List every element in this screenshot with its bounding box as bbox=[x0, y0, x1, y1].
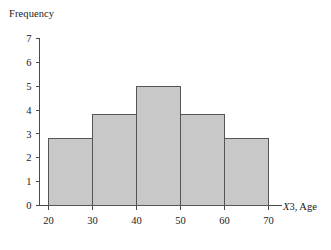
histogram-plot-area: 01234567 203040506070 bbox=[0, 0, 331, 250]
histogram-bar bbox=[181, 115, 225, 206]
histogram-bar bbox=[225, 139, 269, 206]
x-tick-label: 50 bbox=[175, 215, 186, 226]
y-tick-label: 7 bbox=[26, 33, 31, 44]
x-axis-ticks: 203040506070 bbox=[43, 206, 274, 226]
y-tick-label: 0 bbox=[26, 200, 31, 211]
x-tick-label: 70 bbox=[263, 215, 274, 226]
histogram-bars bbox=[49, 86, 269, 205]
y-tick-label: 3 bbox=[26, 129, 31, 140]
y-tick-label: 4 bbox=[26, 105, 32, 116]
y-tick-label: 2 bbox=[26, 152, 31, 163]
x-tick-label: 30 bbox=[87, 215, 98, 226]
histogram-bar bbox=[49, 139, 93, 206]
histogram-figure: Frequency X3, Age 01234567 203040506070 bbox=[0, 0, 331, 250]
y-tick-label: 6 bbox=[26, 57, 31, 68]
x-tick-label: 40 bbox=[131, 215, 142, 226]
y-tick-label: 1 bbox=[26, 176, 31, 187]
histogram-bar bbox=[93, 115, 137, 206]
histogram-bar bbox=[137, 86, 181, 205]
y-axis-ticks: 01234567 bbox=[26, 33, 39, 211]
y-tick-label: 5 bbox=[26, 81, 31, 92]
x-tick-label: 20 bbox=[43, 215, 54, 226]
x-tick-label: 60 bbox=[219, 215, 230, 226]
